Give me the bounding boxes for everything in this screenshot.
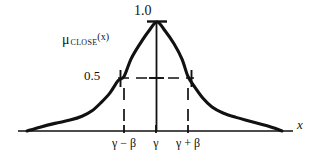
half-value-label: 0.5	[84, 69, 100, 82]
fuzzy-membership-figure: 1.0 0.5 μCLOSE(x) x γ − β γ γ + β	[0, 0, 314, 166]
mu-symbol: μ	[62, 32, 70, 47]
mu-subscript-close: CLOSE	[70, 38, 98, 47]
tick-label-gamma-minus-beta: γ − β	[102, 136, 146, 151]
tick-label-gamma-plus-beta: γ + β	[166, 136, 210, 151]
x-axis-label: x	[297, 118, 303, 131]
mu-argument: (x)	[97, 31, 109, 42]
peak-value-label: 1.0	[134, 4, 152, 18]
membership-function-label: μCLOSE(x)	[62, 32, 109, 47]
